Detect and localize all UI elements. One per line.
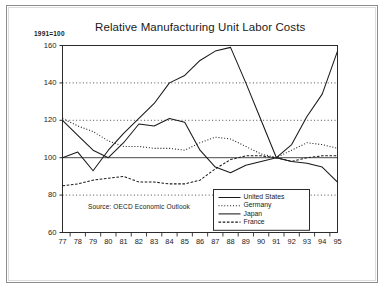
legend-label-germany: Germany xyxy=(244,201,272,208)
series-line-japan xyxy=(63,47,338,170)
y-tick-label-80: 80 xyxy=(29,190,57,199)
gridlines-group xyxy=(63,83,338,195)
data-series-group xyxy=(63,47,338,185)
y-tick-label-160: 160 xyxy=(29,41,57,50)
legend-label-united-states: United States xyxy=(244,193,285,200)
series-line-united-states xyxy=(63,118,338,182)
series-line-france xyxy=(63,156,338,186)
x-tick-label-95: 95 xyxy=(328,237,348,246)
y-tick-label-120: 120 xyxy=(29,115,57,124)
y-tick-label-60: 60 xyxy=(29,228,57,237)
legend-label-france: France xyxy=(244,218,265,225)
y-tick-label-140: 140 xyxy=(29,78,57,87)
y-tick-label-100: 100 xyxy=(29,153,57,162)
series-line-germany xyxy=(63,118,338,157)
figure-container: Relative Manufacturing Unit Labor Costs … xyxy=(0,0,384,290)
legend-label-japan: Japan xyxy=(244,210,263,217)
chart-plot xyxy=(0,0,384,290)
